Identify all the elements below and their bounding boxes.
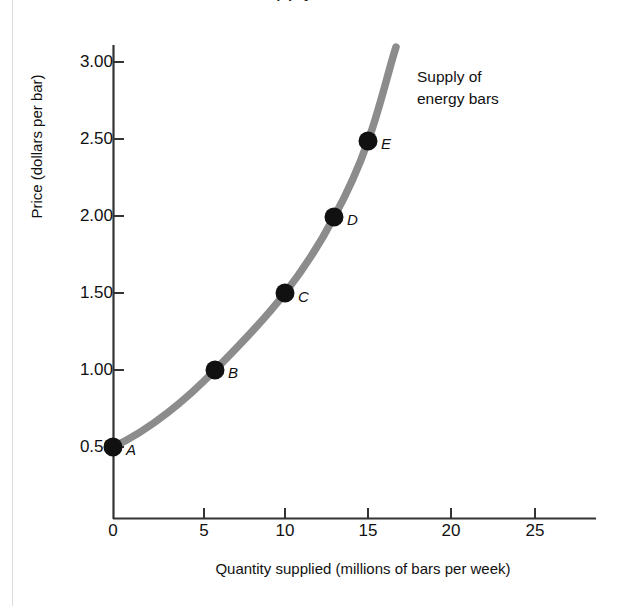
y-axis-ticks: [113, 62, 124, 447]
data-point-markers: [104, 132, 378, 457]
x-tick-label-25: 25: [515, 521, 555, 541]
supply-curve-annotation: Supply of energy bars: [417, 66, 499, 111]
data-point-e: [359, 132, 378, 151]
data-point-label-d: D: [347, 211, 358, 228]
y-tick-3-00: 3.00: [41, 53, 113, 71]
data-point-c: [276, 284, 295, 303]
chart-figure: Supply curve: [0, 0, 622, 606]
data-point-label-b: B: [228, 364, 238, 381]
y-axis-title: Price (dollars per bar): [28, 37, 45, 257]
x-axis-title: Quantity supplied (millions of bars per …: [113, 560, 613, 577]
y-tick-label: 1.50: [51, 284, 113, 301]
annotation-line-1: Supply of: [417, 66, 499, 88]
y-tick-label: 3.00: [51, 53, 113, 70]
supply-curve: [113, 47, 396, 447]
plot-canvas: [0, 0, 622, 606]
y-tick-2-00: 2.00: [41, 207, 113, 225]
x-tick-label-5: 5: [184, 521, 224, 541]
y-tick-0-50: 0.50: [41, 438, 113, 456]
y-tick-1-50: 1.50: [41, 284, 113, 302]
y-tick-label: 2.50: [51, 130, 113, 147]
x-axis-ticks: [204, 508, 535, 519]
data-point-b: [206, 361, 225, 380]
y-tick-label: 0.50: [51, 438, 113, 455]
x-tick-label-0: 0: [93, 521, 133, 541]
y-tick-1-00: 1.00: [41, 361, 113, 379]
y-tick-2-50: 2.50: [41, 130, 113, 148]
data-point-d: [325, 208, 344, 227]
x-tick-label-10: 10: [265, 521, 305, 541]
x-tick-label-20: 20: [431, 521, 471, 541]
data-point-label-c: C: [298, 288, 309, 305]
data-point-label-e: E: [381, 135, 391, 152]
y-tick-label: 1.00: [51, 361, 113, 378]
x-tick-label-15: 15: [348, 521, 388, 541]
annotation-line-2: energy bars: [417, 88, 499, 110]
data-point-label-a: A: [126, 441, 136, 458]
y-tick-label: 2.00: [51, 207, 113, 224]
